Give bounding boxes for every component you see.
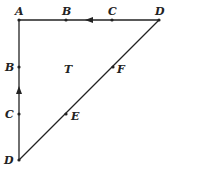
point-top-b bbox=[64, 18, 67, 21]
point-top-a bbox=[17, 18, 20, 21]
label-top-c: C bbox=[108, 5, 117, 18]
label-left-b: B bbox=[4, 61, 14, 74]
label-top-a: A bbox=[14, 5, 24, 18]
point-left-b bbox=[17, 65, 20, 68]
point-hyp-e bbox=[64, 112, 67, 115]
hypotenuse-edge bbox=[19, 20, 159, 160]
label-bottom-d: D bbox=[3, 154, 14, 167]
point-left-c bbox=[17, 112, 20, 115]
label-left-c: C bbox=[5, 108, 14, 121]
label-top-d: D bbox=[154, 5, 165, 18]
point-top-d bbox=[157, 18, 160, 21]
arrow-up-icon bbox=[16, 86, 22, 94]
point-top-c bbox=[110, 18, 113, 21]
label-hyp-e: E bbox=[70, 110, 80, 123]
label-center-t: T bbox=[64, 63, 73, 76]
point-bottom-d bbox=[17, 158, 20, 161]
label-top-b: B bbox=[61, 5, 71, 18]
point-hyp-f bbox=[111, 65, 114, 68]
triangle-diagram: A B C D B C D F E T bbox=[0, 0, 198, 181]
label-hyp-f: F bbox=[116, 63, 126, 76]
arrow-left-icon bbox=[85, 17, 93, 23]
